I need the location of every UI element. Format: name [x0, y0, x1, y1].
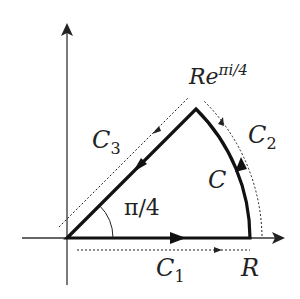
label-c3: C3: [92, 126, 121, 158]
label-angle: π/4: [124, 195, 160, 220]
angle-arc: [100, 206, 114, 239]
c1-dotted-arrow-icon: [214, 247, 222, 253]
c2-dotted-arrow-icon: [218, 117, 224, 126]
label-c2: C2: [248, 121, 277, 153]
label-r: R: [240, 254, 259, 282]
label-c: C: [208, 166, 226, 194]
label-c1: C1: [156, 254, 185, 286]
contour-diagram: C3 C2 C C1 R Reπi/4 π/4: [0, 0, 300, 299]
label-corner: Reπi/4: [188, 61, 248, 89]
c3-dotted-arrow-icon: [152, 126, 161, 134]
c1-direction-arrow-icon: [170, 232, 186, 244]
c2-direction-arrow-icon: [235, 157, 247, 172]
